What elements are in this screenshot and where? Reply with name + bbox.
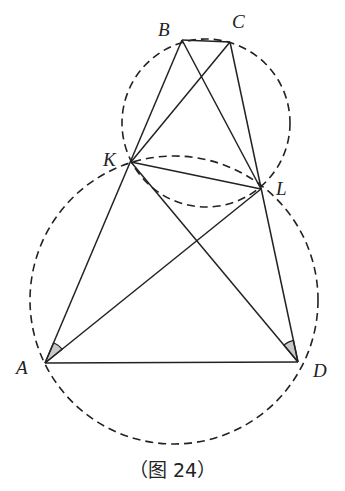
segment-AL bbox=[45, 189, 261, 363]
geometry-figure: A B C D K L bbox=[0, 0, 345, 491]
angle-marks bbox=[45, 340, 298, 363]
segment-CD bbox=[230, 42, 298, 362]
label-K: K bbox=[102, 149, 117, 170]
dashed-circles bbox=[30, 39, 318, 444]
label-L: L bbox=[275, 178, 287, 199]
segment-KD bbox=[131, 162, 298, 362]
segment-BL bbox=[182, 40, 261, 189]
segment-BC bbox=[182, 40, 230, 42]
segment-AB bbox=[45, 40, 182, 363]
segment-AD bbox=[45, 362, 298, 363]
figure-caption: （图 24） bbox=[0, 455, 345, 482]
label-C: C bbox=[232, 11, 245, 32]
label-B: B bbox=[158, 19, 170, 40]
label-A: A bbox=[14, 357, 28, 378]
angle-mark-KAL bbox=[45, 343, 62, 363]
line-segments bbox=[45, 40, 298, 363]
label-D: D bbox=[312, 360, 327, 381]
circle-AKLD bbox=[30, 156, 318, 444]
